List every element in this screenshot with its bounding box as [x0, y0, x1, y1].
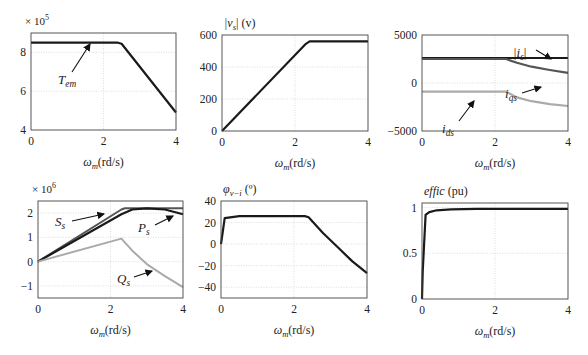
annotation-Qs: Qs [117, 271, 152, 288]
annotation-Tem: Tem [58, 44, 90, 89]
arrow-icon [459, 101, 474, 121]
grid [222, 35, 368, 131]
axis-multiplier: × 105 [25, 13, 49, 27]
ytick-label: 0 [411, 77, 417, 89]
svg-text:iqs: iqs [505, 86, 517, 103]
xlabel: ωm(rd/s) [90, 323, 131, 339]
xtick-label: 2 [291, 303, 297, 315]
grid [422, 35, 568, 131]
xtick-label: 2 [101, 135, 107, 147]
xtick-label: 4 [565, 136, 571, 148]
xtick-label: 2 [492, 304, 498, 316]
arrow-icon [522, 87, 541, 93]
subplot-vs: 0200400600024ωm(rd/s)|vs| (v) [200, 16, 371, 172]
svg-text:Ss: Ss [55, 214, 66, 231]
grid [422, 203, 568, 299]
svg-text:Ps: Ps [137, 220, 150, 237]
xtick-label: 2 [108, 303, 114, 315]
xtick-label: 4 [173, 135, 179, 147]
svg-text:Qs: Qs [117, 271, 130, 288]
ytick-label: 200 [200, 93, 218, 105]
ytick-label: −1 [21, 280, 33, 292]
ytick-label: 4 [20, 124, 26, 136]
series-φv−i [221, 216, 367, 273]
xtick-label: 0 [35, 303, 41, 315]
axis-multiplier: × 106 [32, 181, 56, 195]
series-Qs [38, 239, 183, 288]
xlabel: ωm(rd/s) [475, 324, 516, 340]
ylabel: φv−i (º) [223, 182, 256, 198]
ytick-label: −40 [198, 281, 216, 293]
subplot-currents: −500005000024ωm(rd/s)|is|iqsids [388, 29, 572, 172]
xlabel: ωm(rd/s) [83, 155, 124, 171]
ytick-label: 6 [20, 85, 26, 97]
annotation-ids: ids [442, 101, 474, 138]
ytick-label: 1 [27, 231, 33, 243]
ytick-label: 40 [205, 195, 217, 207]
ylabel: effic (pu) [424, 184, 468, 198]
xlabel: ωm(rd/s) [275, 156, 316, 172]
arrow-icon [155, 216, 173, 225]
ytick-label: 8 [20, 46, 26, 58]
ytick-label: 20 [205, 217, 217, 229]
ytick-label: 0 [27, 256, 33, 268]
xtick-label: 4 [180, 303, 186, 315]
annotation-Ps: Ps [137, 216, 173, 237]
xlabel: ωm(rd/s) [475, 156, 516, 172]
svg-text:ids: ids [442, 121, 454, 138]
xtick-label: 0 [419, 304, 425, 316]
xtick-label: 4 [365, 136, 371, 148]
svg-text:|is|: |is| [513, 45, 526, 62]
ytick-label: 0 [411, 293, 417, 305]
arrow-icon [134, 271, 152, 277]
ytick-label: 2 [27, 207, 33, 219]
grid [31, 33, 176, 130]
ytick-label: 5000 [394, 29, 417, 41]
subplot-power: −1012024ωm(rd/s)× 106SsPsQs [21, 181, 186, 339]
xlabel: ωm(rd/s) [274, 323, 315, 339]
xtick-label: 0 [28, 135, 34, 147]
annotation-abs-is: |is| [513, 45, 551, 62]
xtick-label: 2 [492, 136, 498, 148]
annotation-iqs: iqs [505, 86, 541, 103]
xtick-label: 4 [565, 304, 571, 316]
figure-canvas: 468024ωm(rd/s)× 105Tem0200400600024ωm(rd… [0, 0, 588, 355]
arrow-icon [72, 44, 90, 72]
xtick-label: 4 [364, 303, 370, 315]
ytick-label: 600 [200, 29, 218, 41]
xtick-label: 2 [292, 136, 298, 148]
xtick-label: 0 [219, 136, 225, 148]
subplot-phi: −40−2002040024ωm(rd/s)φv−i (º) [198, 182, 370, 339]
xtick-label: 0 [419, 136, 425, 148]
ytick-label: 0 [211, 125, 217, 137]
ytick-label: 0 [210, 238, 216, 250]
ytick-label: 400 [200, 61, 218, 73]
ytick-label: −20 [198, 260, 216, 272]
series-ids [422, 92, 568, 106]
svg-text:Tem: Tem [58, 72, 76, 89]
ylabel: |vs| (v) [224, 16, 255, 32]
arrow-icon [72, 214, 104, 221]
xtick-label: 0 [218, 303, 224, 315]
ytick-label: 1 [411, 202, 417, 214]
subplot-effic: 00.51024ωm(rd/s)effic (pu) [403, 184, 572, 340]
subplot-tem: 468024ωm(rd/s)× 105Tem [20, 13, 179, 171]
ytick-label: −5000 [388, 125, 418, 137]
ytick-label: 0.5 [403, 247, 418, 259]
